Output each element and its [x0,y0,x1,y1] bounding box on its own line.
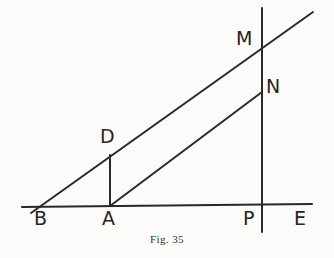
vertex-label-E: E [294,209,306,228]
vertex-label-D: D [100,127,115,146]
geometry-diagram [0,0,334,258]
vertex-label-A: A [102,209,115,228]
figure-caption: Fig. 35 [0,233,334,245]
oblique-line-A-to-N [110,92,262,206]
oblique-line-B-to-M [31,12,313,213]
vertex-label-P: P [243,209,254,228]
figure-container: B A D M N P E Fig. 35 [0,0,334,258]
vertex-label-B: B [34,209,47,228]
vertex-label-M: M [236,29,252,48]
vertex-label-N: N [266,77,280,96]
base-line-BE [22,204,312,207]
